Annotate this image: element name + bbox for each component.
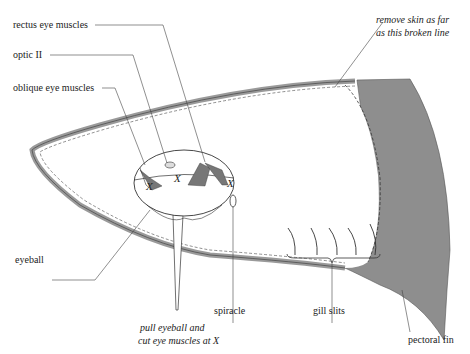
label-oblique-eye-muscles: oblique eye muscles xyxy=(13,82,94,94)
dissection-diagram xyxy=(0,0,470,354)
label-rectus-eye-muscles: rectus eye muscles xyxy=(13,19,88,31)
label-gill-slits: gill slits xyxy=(313,305,345,317)
label-remove-skin-line2: as this broken line xyxy=(376,27,449,39)
cut-mark-x-2: X xyxy=(174,172,181,184)
label-spiracle: spiracle xyxy=(214,305,245,317)
eyeball-stalk xyxy=(173,215,183,310)
cut-mark-x-1: X xyxy=(146,180,153,192)
label-optic-ii: optic II xyxy=(13,49,42,61)
label-pectoral-fin: pectoral fin xyxy=(408,334,454,346)
cut-mark-x-3: X xyxy=(227,177,234,189)
label-instruction-line2: cut eye muscles at X xyxy=(138,335,219,347)
label-eyeball: eyeball xyxy=(15,254,44,266)
label-instruction-line1: pull eyeball and xyxy=(140,322,204,334)
spiracle-shape xyxy=(230,195,236,207)
label-remove-skin-line1: remove skin as far xyxy=(376,14,449,26)
